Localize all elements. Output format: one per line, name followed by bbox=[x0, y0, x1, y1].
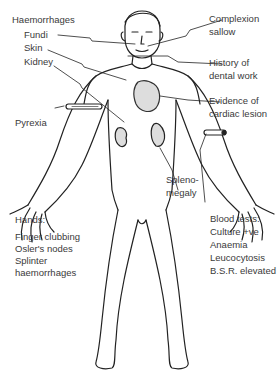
label-splinter-haemorrhages: haemorrhages bbox=[15, 267, 76, 279]
label-dental-work: dental work bbox=[209, 70, 258, 82]
thermometer-pyrexia-icon bbox=[66, 104, 102, 109]
label-kidney: Kidney bbox=[24, 56, 53, 68]
label-pyrexia: Pyrexia bbox=[15, 117, 47, 129]
label-cardiac-evidence: Evidence of bbox=[209, 95, 259, 107]
label-leucocytosis: Leucocytosis bbox=[210, 252, 265, 264]
label-finger-clubbing: Finger clubbing bbox=[15, 231, 80, 243]
spleen-shape bbox=[151, 123, 164, 146]
label-splenomegaly-1: Spleno- bbox=[166, 174, 199, 186]
label-complexion: Complexion bbox=[209, 13, 259, 25]
label-dental-history: History of bbox=[209, 57, 249, 69]
heart-shape bbox=[134, 81, 160, 112]
head-outline bbox=[121, 11, 162, 58]
label-anaemia: Anaemia bbox=[210, 239, 248, 251]
label-skin: Skin bbox=[24, 42, 42, 54]
label-hands-title: Hands: bbox=[15, 214, 45, 226]
label-splenomegaly-2: megaly bbox=[166, 187, 197, 199]
legs-outline bbox=[96, 210, 189, 369]
label-fundi: Fundi bbox=[24, 29, 48, 41]
label-bsr-elevated: B.S.R. elevated bbox=[210, 265, 276, 277]
label-cardiac-lesion: cardiac lesion bbox=[209, 108, 267, 120]
label-culture-positive: Culture +ve bbox=[210, 226, 259, 238]
label-haemorrhages: Haemorrhages bbox=[12, 14, 75, 26]
label-oslers-nodes: Osler's nodes bbox=[15, 243, 73, 255]
thermometer-blood-test-icon bbox=[204, 130, 226, 135]
label-complexion-sallow: sallow bbox=[209, 26, 235, 38]
kidney-left-shape bbox=[115, 128, 126, 147]
label-splinter: Splinter bbox=[15, 255, 47, 267]
label-blood-tests: Blood tests: bbox=[210, 213, 260, 225]
